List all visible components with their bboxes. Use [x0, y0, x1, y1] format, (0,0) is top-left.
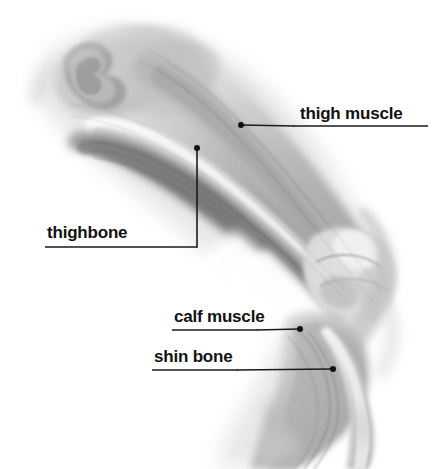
label-shin-bone[interactable]: shin bone	[154, 348, 232, 365]
diagram-canvas: thigh muscle thighbone calf muscle shin …	[0, 0, 436, 469]
shin-bone-leader-dot	[330, 366, 336, 372]
callout-calf-muscle[interactable]	[172, 326, 303, 332]
label-calf-muscle[interactable]: calf muscle	[174, 308, 264, 325]
label-thighbone[interactable]: thighbone	[47, 224, 127, 241]
label-thigh-muscle[interactable]: thigh muscle	[300, 105, 402, 122]
calf-muscle-leader-line	[257, 329, 299, 330]
thighbone-leader-dot	[194, 145, 200, 151]
thigh-muscle-leader-dot	[238, 122, 244, 128]
thigh-muscle-leader-line	[241, 125, 294, 126]
shin-bone-leader-line	[237, 369, 332, 370]
callout-shin-bone[interactable]	[152, 366, 336, 372]
calf-muscle-leader-dot	[297, 326, 303, 332]
